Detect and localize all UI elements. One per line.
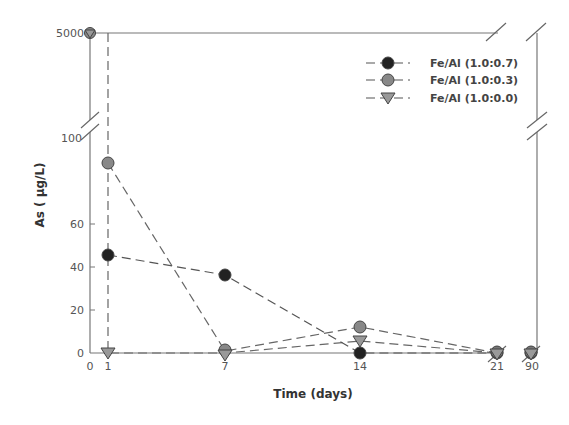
legend-item-0.7: Fe/Al (1.0:0.7) <box>366 57 518 70</box>
y-ticks <box>90 224 95 310</box>
y-tick-60: 60 <box>70 218 84 231</box>
y-axis-title: As ( µg/L) <box>33 162 47 227</box>
y-tick-20: 20 <box>70 304 84 317</box>
x-tick-90: 90 <box>525 360 539 373</box>
x-tick-1: 1 <box>105 360 112 373</box>
y-tick-5000: 5000 <box>56 27 84 40</box>
svg-text:Fe/Al (1.0:0.3): Fe/Al (1.0:0.3) <box>430 74 518 87</box>
legend-item-0.0: Fe/Al (1.0:0.0) <box>366 92 518 105</box>
point-0.0-d7 <box>218 350 232 361</box>
point-0.7-d1 <box>102 249 114 261</box>
point-0.7-d14 <box>354 347 366 359</box>
y-tick-0: 0 <box>77 347 84 360</box>
series-line-fe-al-1.0-0.7 <box>108 255 497 353</box>
x-tick-7: 7 <box>222 360 229 373</box>
y-tick-100: 100 <box>61 132 82 145</box>
point-0.3-d1 <box>102 157 114 169</box>
legend-item-0.3: Fe/Al (1.0:0.3) <box>366 74 518 87</box>
series-line-fe-al-1.0-0.3 <box>108 163 497 353</box>
y-tick-40: 40 <box>70 261 84 274</box>
x-tick-21: 21 <box>490 360 504 373</box>
svg-text:Fe/Al (1.0:0.0): Fe/Al (1.0:0.0) <box>430 92 518 105</box>
line-chart: 5000 100 60 40 20 0 0 1 7 14 21 90 Time … <box>0 0 569 425</box>
x-axis-title: Time (days) <box>273 387 352 401</box>
x-tick-14: 14 <box>353 360 367 373</box>
point-0.7-d7 <box>219 269 231 281</box>
x-tick-0: 0 <box>87 360 94 373</box>
point-0.3-d14 <box>354 321 366 333</box>
legend: Fe/Al (1.0:0.7) Fe/Al (1.0:0.3) Fe/Al (1… <box>366 57 518 105</box>
svg-text:Fe/Al (1.0:0.7): Fe/Al (1.0:0.7) <box>430 57 518 70</box>
